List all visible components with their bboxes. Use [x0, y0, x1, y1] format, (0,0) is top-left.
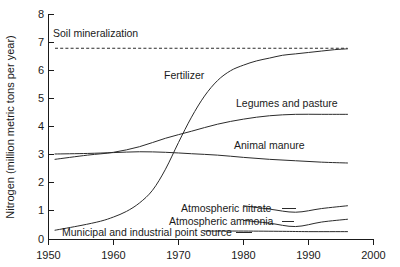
x-axis-ticks [49, 240, 374, 245]
label-atmospheric-nitrate: Atmospheric nitrate [181, 202, 272, 214]
label-animal-manure: Animal manure [234, 139, 305, 151]
y-tick-label-4: 4 [38, 120, 44, 132]
x-tick-label-1990: 1990 [296, 249, 320, 261]
x-tick-label-1950: 1950 [36, 249, 60, 261]
y-tick-label-5: 5 [38, 92, 44, 104]
y-axis-ticks [49, 15, 54, 240]
label-municipal-point-source: Municipal and industrial point source [62, 226, 232, 238]
x-tick-label-1970: 1970 [166, 249, 190, 261]
y-tick-label-6: 6 [38, 64, 44, 76]
y-tick-label-7: 7 [38, 36, 44, 48]
x-tick-label-1980: 1980 [231, 249, 255, 261]
nitrogen-sources-line-chart: 8 7 6 5 4 3 2 1 0 1950 1960 1970 1980 19… [0, 0, 400, 267]
y-tick-label-2: 2 [38, 176, 44, 188]
chart-plot-area: 8 7 6 5 4 3 2 1 0 1950 1960 1970 1980 19… [0, 0, 400, 267]
x-tick-label-1960: 1960 [101, 249, 125, 261]
label-soil-mineralization: Soil mineralization [53, 27, 138, 39]
y-tick-label-3: 3 [38, 148, 44, 160]
y-axis-title: Nitrogen (million metric tons per year) [4, 35, 16, 218]
y-tick-label-0: 0 [38, 233, 44, 245]
label-fertilizer: Fertilizer [164, 69, 205, 81]
series-line-animal-manure [55, 152, 348, 163]
y-tick-label-1: 1 [38, 204, 44, 216]
label-legums-and-pasture: Legumes and pasture [236, 97, 338, 109]
x-tick-label-2000: 2000 [361, 249, 385, 261]
y-tick-label-8: 8 [38, 8, 44, 20]
series-line-legumes-and-pasture [55, 114, 348, 159]
